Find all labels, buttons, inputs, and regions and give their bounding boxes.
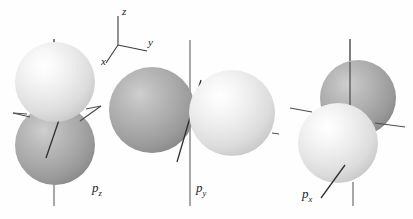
py-y-axis-right-line [272, 133, 279, 134]
axis-label-x: x [101, 55, 106, 67]
pz-upper-lobe [15, 42, 95, 122]
orbital-px [290, 39, 405, 206]
axis-label-z: z [122, 5, 126, 17]
px-y-axis-left-line [290, 108, 312, 112]
orbital-label-px: px [302, 186, 312, 204]
orbital-label-py: py [196, 180, 206, 198]
orbital-label-py-sub: y [203, 188, 207, 198]
py-left-lobe [109, 67, 195, 153]
key-x-axis-line [106, 45, 118, 63]
orbital-scene [0, 0, 413, 219]
key-y-axis-line [118, 45, 147, 51]
axis-label-y: y [148, 36, 153, 48]
px-front-lobe [298, 103, 378, 183]
py-right-lobe [189, 70, 275, 156]
orbital-label-px-sub: x [309, 194, 313, 204]
coordinate-axes-key [106, 16, 147, 63]
orbital-label-pz-sub: z [99, 188, 102, 198]
orbital-py [109, 40, 279, 206]
p-orbitals-figure: z y x pz py px [0, 0, 413, 219]
orbital-pz [13, 39, 101, 206]
orbital-label-pz: pz [92, 180, 102, 198]
